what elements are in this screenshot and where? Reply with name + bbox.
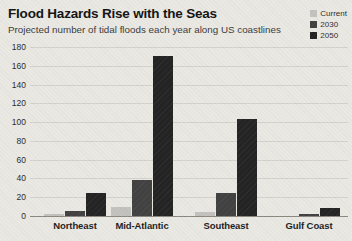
y-axis-tick-label: 40	[4, 174, 26, 183]
legend-swatch-icon	[310, 10, 317, 17]
bar-2030	[132, 180, 152, 216]
bar-current	[111, 207, 131, 216]
bar-2050	[86, 193, 106, 216]
bar-group-mid-atlantic	[111, 42, 173, 216]
chart: 020406080100120140160180NortheastMid-Atl…	[4, 42, 348, 238]
legend-item: Current	[310, 9, 347, 18]
y-axis-tick-label: 80	[4, 137, 26, 146]
bar-group-southeast	[195, 42, 257, 216]
y-axis-tick-label: 20	[4, 193, 26, 202]
bar-group-gulf-coast	[278, 42, 340, 216]
bar-2050	[153, 56, 173, 216]
y-axis-tick-label: 120	[4, 99, 26, 108]
bar-group-northeast	[44, 42, 106, 216]
y-axis-tick-label: 0	[4, 212, 26, 221]
chart-subtitle: Projected number of tidal floods each ye…	[8, 24, 308, 36]
x-axis-line	[30, 216, 348, 217]
legend-item: 2030	[310, 20, 347, 29]
bar-2050	[320, 208, 340, 216]
legend-swatch-icon	[310, 21, 317, 28]
x-axis-category-label: Gulf Coast	[267, 220, 351, 231]
y-axis-tick-label: 140	[4, 81, 26, 90]
y-axis-tick-label: 180	[4, 43, 26, 52]
legend-label: 2030	[320, 20, 338, 29]
bar-2030	[299, 214, 319, 216]
x-axis-category-label: Mid-Atlantic	[100, 220, 184, 231]
y-axis-tick-label: 100	[4, 118, 26, 127]
bar-2030	[65, 211, 85, 216]
legend-item: 2050	[310, 31, 347, 40]
bar-2030	[216, 193, 236, 216]
legend-label: Current	[320, 9, 347, 18]
bar-current	[44, 214, 64, 216]
chart-header: Flood Hazards Rise with the Seas Project…	[8, 6, 308, 36]
y-axis-tick-label: 160	[4, 62, 26, 71]
chart-title: Flood Hazards Rise with the Seas	[8, 6, 308, 22]
page: { "header": { "title": "Flood Hazards Ri…	[0, 0, 352, 241]
legend: Current20302050	[310, 9, 347, 42]
bar-2050	[237, 119, 257, 216]
x-axis-category-label: Southeast	[184, 220, 268, 231]
y-axis-tick-label: 60	[4, 156, 26, 165]
legend-label: 2050	[320, 31, 338, 40]
legend-swatch-icon	[310, 32, 317, 39]
bar-current	[195, 212, 215, 216]
